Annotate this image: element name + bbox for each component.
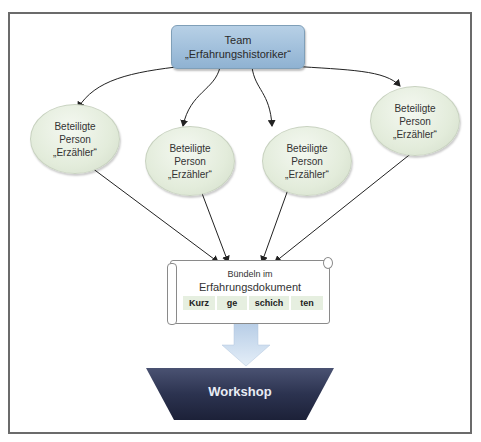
participant-line1: Beteiligte [54, 120, 95, 133]
syllable-cell: ten [291, 296, 323, 310]
participant-node-4: Beteiligte Person „Erzähler“ [370, 86, 460, 156]
syllable-cell: ge [217, 296, 247, 310]
participant-node-2: Beteiligte Person „Erzähler“ [145, 126, 235, 196]
team-node-line1: Team [225, 33, 252, 47]
participant-line1: Beteiligte [394, 102, 435, 115]
participant-line1: Beteiligte [169, 142, 210, 155]
participant-line3: „Erzähler“ [168, 168, 212, 181]
document-line1: Bündeln im [171, 269, 329, 279]
participant-node-1: Beteiligte Person „Erzähler“ [30, 104, 120, 174]
participant-line3: „Erzähler“ [53, 146, 97, 159]
scroll-curl-right [323, 257, 333, 269]
workshop-label: Workshop [146, 382, 334, 402]
participant-line2: Person [399, 115, 431, 128]
participant-node-3: Beteiligte Person „Erzähler“ [262, 126, 352, 196]
syllable-cell: schich [249, 296, 289, 310]
document-line2: Erfahrungsdokument [171, 281, 329, 293]
participant-line3: „Erzähler“ [393, 128, 437, 141]
participant-line3: „Erzähler“ [285, 168, 329, 181]
participant-line2: Person [291, 155, 323, 168]
document-scroll: Bündeln im Erfahrungsdokument Kurz ge sc… [170, 260, 330, 324]
participant-line2: Person [174, 155, 206, 168]
participant-line1: Beteiligte [286, 142, 327, 155]
syllable-row: Kurz ge schich ten [183, 296, 323, 310]
team-node: Team „Erfahrungshistoriker“ [171, 25, 305, 69]
participant-line2: Person [59, 133, 91, 146]
team-node-line2: „Erfahrungshistoriker“ [185, 47, 291, 61]
syllable-cell: Kurz [183, 296, 215, 310]
down-block-arrow [222, 323, 270, 366]
